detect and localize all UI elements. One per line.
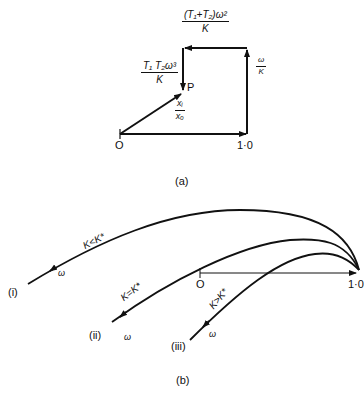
figure-b-curves bbox=[28, 210, 359, 340]
label-ratio-denominator: xₒ bbox=[176, 111, 184, 122]
label-ratio-numerator: xᵢ bbox=[175, 99, 185, 110]
curve-i-omega: ω bbox=[58, 269, 65, 278]
label-right-denominator: K bbox=[258, 67, 263, 77]
label-omega-over-k: ω K bbox=[256, 56, 266, 77]
label-t1-plus-t2: (T₁+T₂)ω² K bbox=[182, 9, 229, 34]
label-left-denominator: K bbox=[156, 73, 163, 85]
label-left-numerator: T₁ T₂ω³ bbox=[141, 60, 178, 72]
curve-ii bbox=[112, 239, 359, 322]
label-t1t2: T₁ T₂ω³ K bbox=[141, 60, 178, 85]
point-p-label: P bbox=[187, 82, 194, 93]
label-right-numerator: ω bbox=[256, 56, 266, 66]
curve-ii-omega: ω bbox=[124, 333, 131, 342]
unit-label-b: 1·0 bbox=[348, 279, 364, 290]
curve-iii-omega: ω bbox=[209, 330, 216, 339]
curve-iii-arrow bbox=[203, 321, 209, 327]
label-top-denominator: K bbox=[202, 22, 209, 34]
curve-ii-arrow bbox=[120, 312, 126, 317]
curve-ii-marker: (ii) bbox=[89, 330, 101, 341]
diagram-canvas bbox=[0, 0, 364, 396]
unit-label-a: 1·0 bbox=[237, 140, 253, 151]
curve-i-marker: (i) bbox=[8, 287, 18, 298]
figure-a-vectors bbox=[120, 48, 247, 139]
xi-over-xo-vector bbox=[120, 94, 181, 134]
origin-label-b: O bbox=[196, 279, 205, 290]
label-xi-over-xo: xᵢ xₒ bbox=[175, 99, 185, 122]
curve-iii-marker: (iii) bbox=[171, 341, 186, 352]
label-top-numerator: (T₁+T₂)ω² bbox=[182, 9, 229, 21]
caption-a: (a) bbox=[175, 176, 188, 187]
origin-label-a: O bbox=[115, 140, 124, 151]
caption-b: (b) bbox=[176, 375, 189, 386]
